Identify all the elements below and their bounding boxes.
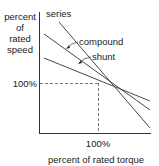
y-axis-label-line-3: rated	[9, 33, 31, 44]
x-axis-label: percent of rated torque	[48, 154, 144, 165]
y-axis-label-line-1: percent	[4, 11, 36, 22]
shunt-curve	[44, 58, 150, 101]
compound-label: compound	[79, 36, 123, 47]
shunt-label: shunt	[92, 51, 116, 62]
x-marker-label: 100%	[86, 138, 111, 149]
y-marker-label: 100%	[13, 78, 38, 89]
y-axis-label-line-2: of	[16, 22, 24, 33]
speed-torque-diagram: percent of rated speed 100% 100% percent…	[0, 0, 159, 166]
series-label: series	[46, 8, 72, 19]
y-axis-label-line-4: speed	[7, 44, 33, 55]
